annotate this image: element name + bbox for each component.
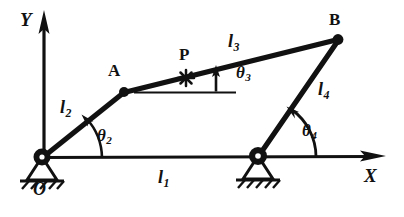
angle-label-theta2: θ2 — [97, 127, 111, 144]
link-label-l4: l4 — [318, 80, 329, 98]
link-label-l3-subscript: 3 — [233, 40, 239, 54]
joint-b-dot — [333, 34, 344, 45]
x-axis-label: X — [364, 166, 377, 185]
angle-label-theta4: θ4 — [302, 122, 316, 139]
angle-label-theta3: θ3 — [236, 64, 250, 81]
point-label-a: A — [108, 62, 120, 79]
coupler-point-p-star-marker — [178, 70, 194, 86]
link-label-l4-subscript: 4 — [323, 88, 329, 102]
four-bar-linkage-figure: Y X O A B P l1 l2 l3 l4 θ2 θ3 θ4 — [0, 0, 404, 217]
angle-label-theta3-base: θ — [236, 63, 245, 82]
origin-label-o: O — [33, 180, 46, 198]
link-label-l3: l3 — [228, 32, 239, 50]
point-label-p: P — [179, 46, 189, 63]
pivot-b0-joint-hole — [255, 153, 261, 159]
ground-pivot-b0 — [236, 147, 280, 188]
coordinate-axes — [39, 10, 387, 162]
y-axis-label: Y — [20, 10, 32, 29]
link-l2-crank — [42, 92, 125, 158]
joint-a-dot — [119, 87, 129, 97]
angle-label-theta3-subscript: 3 — [245, 71, 251, 83]
linkage-bars — [42, 40, 339, 159]
link-label-l2: l2 — [60, 98, 71, 116]
angle-label-theta4-base: θ — [302, 121, 311, 140]
angle-label-theta4-subscript: 4 — [311, 129, 317, 141]
angle-label-theta2-subscript: 2 — [106, 134, 112, 146]
point-label-b: B — [329, 11, 340, 28]
link-label-l2-subscript: 2 — [65, 106, 71, 120]
link-label-l1-subscript: 1 — [163, 176, 169, 190]
x-axis-line — [42, 157, 372, 158]
link-label-l1: l1 — [158, 168, 169, 186]
angle-label-theta2-base: θ — [97, 126, 106, 145]
pivot-o-joint-hole — [39, 154, 44, 159]
